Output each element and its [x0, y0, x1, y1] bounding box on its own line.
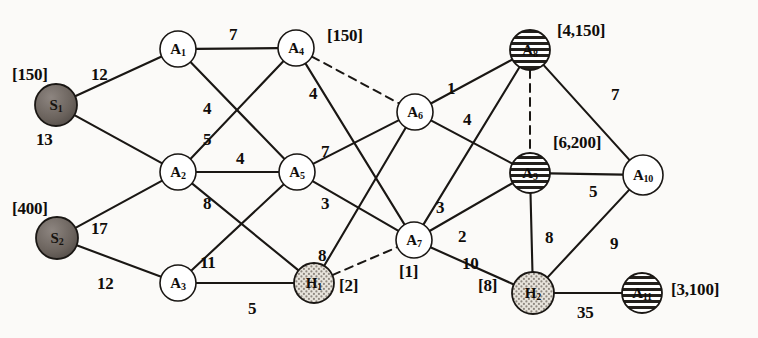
edge-weight-a3-a5: 11 — [200, 254, 216, 271]
node-label-a3: A3 — [170, 276, 185, 292]
edge-weight-a6-a9: 4 — [463, 111, 471, 128]
edge-weight-a4-a7: 4 — [309, 85, 317, 102]
edge-weight-a5-a7: 3 — [321, 195, 329, 212]
edge-weight-s1-a1: 12 — [91, 66, 108, 83]
node-label-text: A — [522, 42, 533, 58]
edge-weight-a1-a4: 7 — [229, 26, 237, 43]
node-label-text: A — [633, 167, 644, 183]
edge-weight-h1-a6: 8 — [318, 247, 326, 264]
node-bracket-s2: [400] — [12, 200, 48, 217]
node-bracket-a8: [4,150] — [557, 22, 605, 39]
node-label-a7: A7 — [406, 233, 421, 249]
node-bracket-a11: [3,100] — [671, 281, 719, 298]
edge-weight-a7-h2: 10 — [462, 255, 479, 272]
edge-weight-h2-a11: 35 — [577, 304, 594, 321]
node-bracket-a9: [6,200] — [553, 134, 601, 151]
node-label-text: A — [522, 165, 533, 181]
edge-a9-h2 — [530, 193, 532, 272]
node-bracket-a4: [150] — [327, 27, 363, 44]
edge-s1-a2 — [74, 115, 162, 163]
edge-weight-a6-a8: 1 — [447, 80, 455, 97]
node-label-text: A — [288, 40, 299, 56]
edge-weight-s2-a2: 17 — [91, 220, 108, 237]
node-label-text: A — [170, 275, 181, 291]
node-label-subscript: 1 — [181, 47, 186, 58]
edge-weight-a9-h2: 8 — [545, 229, 553, 246]
node-label-subscript: 2 — [181, 170, 186, 181]
node-label-s2: S2 — [51, 231, 64, 247]
node-label-a9: A9 — [522, 166, 537, 182]
edge-a1-a4 — [196, 48, 278, 49]
node-label-a5: A5 — [289, 165, 304, 181]
node-label-s1: S1 — [50, 98, 63, 114]
node-label-subscript: 5 — [300, 170, 305, 181]
edge-a6-a9 — [431, 120, 512, 163]
edge-weight-s2-a3: 12 — [97, 275, 114, 292]
node-label-a8: A8 — [522, 43, 537, 59]
node-label-a11: A11 — [632, 286, 652, 302]
node-label-subscript: 1 — [317, 281, 322, 292]
node-label-text: A — [406, 232, 417, 248]
node-label-text: A — [632, 285, 643, 301]
node-label-subscript: 10 — [644, 173, 654, 184]
node-label-subscript: 8 — [533, 48, 538, 59]
node-label-subscript: 2 — [536, 291, 541, 302]
node-label-subscript: 9 — [533, 171, 538, 182]
node-label-text: S — [50, 97, 58, 113]
edge-s2-a3 — [77, 245, 161, 276]
edge-a9-a10 — [550, 173, 623, 174]
edge-weight-a3-h1: 5 — [248, 300, 256, 317]
edge-weight-a9-a10: 5 — [589, 183, 597, 200]
node-layer — [35, 30, 663, 314]
node-label-subscript: 11 — [643, 291, 652, 302]
node-label-subscript: 1 — [58, 103, 63, 114]
edge-weight-a2-a4: 5 — [203, 131, 211, 148]
network-diagram-canvas: 12131712745481154738143210758935S1[150]S… — [0, 0, 758, 338]
node-label-text: A — [170, 41, 181, 57]
node-label-subscript: 3 — [181, 281, 186, 292]
node-bracket-h1: [2] — [339, 277, 358, 294]
edge-weight-a7-a9: 2 — [458, 228, 466, 245]
edge-s2-a2 — [75, 181, 162, 228]
node-label-text: A — [170, 164, 181, 180]
edge-weight-a8-a10: 7 — [611, 86, 619, 103]
node-label-subscript: 2 — [59, 236, 64, 247]
node-label-text: A — [407, 104, 418, 120]
node-label-a2: A2 — [170, 165, 185, 181]
node-label-a10: A10 — [633, 168, 653, 184]
node-label-a6: A6 — [407, 105, 422, 121]
edge-s1-a1 — [75, 57, 162, 97]
edge-weight-a2-a5: 4 — [236, 150, 244, 167]
edge-weight-a10-h2: 9 — [610, 235, 618, 252]
node-bracket-h2: [8] — [478, 277, 497, 294]
edge-h1-a7 — [332, 247, 397, 275]
node-label-subscript: 6 — [418, 110, 423, 121]
edge-weight-a5-a6: 7 — [321, 143, 329, 160]
node-label-text: S — [51, 230, 59, 246]
node-label-a1: A1 — [170, 42, 185, 58]
node-label-text: H — [525, 285, 536, 301]
node-label-h1: H1 — [306, 276, 322, 292]
edge-weight-a7-a8: 3 — [436, 199, 444, 216]
node-label-subscript: 4 — [299, 46, 304, 57]
node-bracket-s1: [150] — [12, 66, 48, 83]
node-label-h2: H2 — [525, 286, 541, 302]
edge-weight-a1-a5: 4 — [203, 100, 211, 117]
edge-h1-a6 — [324, 127, 406, 265]
node-label-a4: A4 — [288, 41, 303, 57]
node-label-text: A — [289, 164, 300, 180]
node-bracket-a7: [1] — [399, 263, 418, 280]
edge-weight-s1-a2: 13 — [36, 131, 53, 148]
node-label-text: H — [306, 275, 317, 291]
node-label-subscript: 7 — [417, 238, 422, 249]
edge-weight-a2-h1: 8 — [203, 195, 211, 212]
